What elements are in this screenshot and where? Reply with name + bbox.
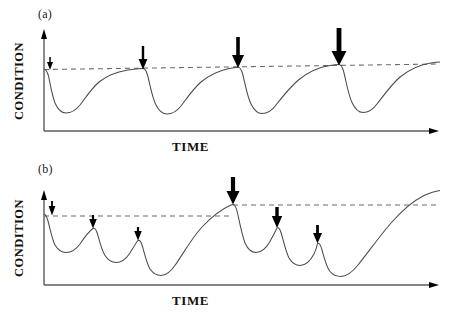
y-axis-arrowhead bbox=[41, 29, 47, 39]
panel-b-arrow-2 bbox=[89, 215, 97, 229]
x-axis-arrowhead bbox=[429, 128, 439, 134]
panel-b-condition-curve bbox=[44, 191, 440, 277]
panel-a-reference-line bbox=[44, 64, 440, 70]
panel-a-arrow-2 bbox=[139, 46, 148, 70]
panel-b-y-axis bbox=[41, 190, 47, 285]
x-axis-arrowhead bbox=[429, 282, 439, 288]
y-axis-arrowhead bbox=[41, 190, 47, 200]
panel-b-arrow-1 bbox=[49, 201, 56, 216]
panel-b-plot bbox=[0, 157, 462, 314]
panel-b: (b) CONDITION TIME bbox=[0, 157, 462, 314]
panel-b-arrow-4 bbox=[227, 177, 240, 205]
panel-a-condition-curve bbox=[44, 62, 440, 114]
panel-b-reference-line bbox=[44, 205, 440, 216]
panel-b-x-axis bbox=[44, 282, 439, 288]
panel-b-arrow-5 bbox=[272, 207, 282, 228]
panel-a: (a) CONDITION TIME bbox=[0, 0, 462, 160]
panel-a-arrow-4 bbox=[332, 28, 347, 66]
panel-a-arrow-3 bbox=[232, 37, 244, 68]
panel-b-arrow-3 bbox=[134, 227, 142, 241]
panel-a-plot bbox=[0, 0, 462, 160]
panel-b-arrow-6 bbox=[313, 225, 322, 244]
figure-condition-vs-time: (a) CONDITION TIME bbox=[0, 0, 462, 314]
panel-a-y-axis bbox=[41, 29, 47, 131]
panel-a-x-axis bbox=[44, 128, 439, 134]
panel-a-arrow-1 bbox=[47, 57, 53, 70]
